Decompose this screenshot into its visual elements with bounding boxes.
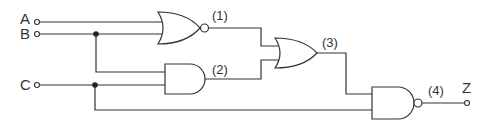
and-gate-body — [165, 64, 205, 94]
nand-gate-body — [372, 87, 414, 119]
output-label-z: Z — [462, 79, 471, 96]
input-label-b: B — [20, 25, 30, 42]
nand-bubble — [414, 99, 422, 107]
terminal-a — [35, 20, 40, 25]
nor-gate-body — [158, 12, 200, 44]
or-gate-body — [275, 38, 317, 68]
wire-or-out — [317, 53, 372, 94]
gate-label-3: (3) — [322, 35, 338, 50]
logic-circuit-diagram: A B C — [0, 0, 488, 128]
gate-1-nor — [158, 12, 209, 44]
terminal-c — [35, 83, 40, 88]
gate-3-or — [275, 38, 317, 68]
terminal-b — [35, 32, 40, 37]
gate-4-nand — [372, 87, 422, 119]
junction-dot-c — [92, 82, 98, 88]
junction-dot-b — [93, 31, 99, 37]
wire-nor-out — [209, 28, 280, 46]
gate-label-2: (2) — [212, 62, 228, 77]
input-label-c: C — [20, 76, 31, 93]
nor-bubble — [201, 24, 209, 32]
wire-b-branch — [96, 34, 165, 72]
gate-2-and — [165, 64, 205, 94]
gate-label-1: (1) — [212, 8, 228, 23]
terminal-z — [465, 101, 470, 106]
gate-label-4: (4) — [428, 83, 444, 98]
wire-c-branch — [95, 85, 372, 110]
